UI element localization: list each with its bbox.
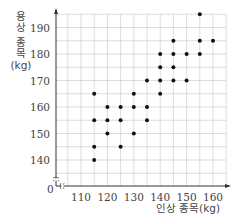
data-point [132,92,136,96]
data-point [171,39,175,43]
x-tick-label: 110 [71,191,91,203]
y-tick-label: 140 [30,154,50,166]
origin-label: 0 [47,183,54,195]
y-axis-label-part: 목 [16,47,26,59]
y-tick-label: 160 [30,101,50,113]
data-point [198,39,202,43]
x-tick-label: 120 [97,191,117,203]
data-point [92,92,96,96]
data-points [92,12,215,162]
y-axis-label: 용상종목(kg) [11,10,32,71]
y-tick-label: 150 [30,128,50,140]
data-point [119,145,123,149]
data-point [185,52,189,56]
y-tick-label: 190 [30,22,50,34]
data-point [158,79,162,83]
data-point [132,132,136,136]
data-point [171,79,175,83]
y-tick-label: 180 [30,48,50,60]
x-axis-arrow-icon [225,184,231,188]
data-point [171,52,175,56]
y-axis-label-part: 상 [16,21,26,33]
y-axis-arrow-icon [54,8,58,14]
data-point [105,132,109,136]
data-point [105,118,109,122]
axes [53,8,231,189]
data-point [145,79,149,83]
y-axis-label-part: (kg) [11,59,32,71]
data-point [198,12,202,16]
data-point [211,39,215,43]
data-point [145,105,149,109]
x-tick-label: 130 [124,191,144,203]
data-point [132,105,136,109]
data-point [92,118,96,122]
data-point [158,52,162,56]
data-point [158,92,162,96]
data-point [119,118,123,122]
data-point [92,145,96,149]
data-point [119,105,123,109]
y-tick-label: 170 [30,75,50,87]
data-point [171,65,175,69]
data-point [105,105,109,109]
scatter-plot: 140150160170180190 110120130140150160 0 … [0,0,236,224]
x-axis-label: 인상 종목(kg) [156,202,220,214]
data-point [158,65,162,69]
data-point [145,118,149,122]
y-tick-labels: 140150160170180190 [30,22,50,167]
data-point [198,52,202,56]
data-point [185,79,189,83]
data-point [92,158,96,162]
